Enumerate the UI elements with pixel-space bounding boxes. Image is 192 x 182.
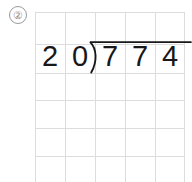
grid-line-horizontal xyxy=(35,12,185,13)
divisor-digit: 2 xyxy=(35,38,65,74)
grid-line-horizontal xyxy=(35,128,185,129)
long-division-expression: 2 0 7 7 4 xyxy=(35,38,192,74)
problem-number-marker: ② xyxy=(9,6,27,24)
dividend-digit: 7 xyxy=(125,38,155,74)
grid-line-horizontal xyxy=(35,156,185,157)
dividend-digit: 4 xyxy=(155,38,185,74)
grid-line-horizontal xyxy=(35,100,185,101)
dividend-digit: 7 xyxy=(95,38,125,74)
divisor-digit: 0 xyxy=(65,38,95,74)
